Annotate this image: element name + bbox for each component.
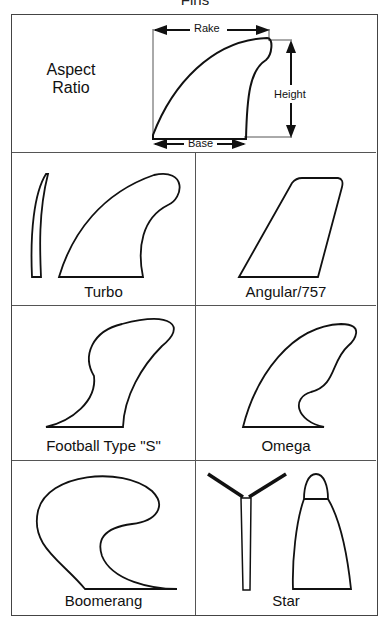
- fin-cell-star: Star: [196, 461, 376, 615]
- fin-cell-boomerang: Boomerang: [12, 461, 196, 615]
- fin-label-omega: Omega: [196, 437, 376, 454]
- base-label: Base: [188, 137, 213, 149]
- aspect-ratio-cell: Aspect Ratio Rake: [12, 15, 376, 153]
- fin-cell-football-s: Football Type "S": [12, 306, 196, 461]
- fin-label-football-s: Football Type "S": [12, 437, 195, 454]
- rake-label: Rake: [194, 22, 220, 34]
- fin-label-angular: Angular/757: [196, 283, 376, 300]
- height-label: Height: [274, 88, 306, 100]
- fin-cell-angular: Angular/757: [196, 153, 376, 306]
- fin-label-star: Star: [196, 592, 376, 609]
- fin-cell-turbo: Turbo: [12, 153, 196, 306]
- fin-cell-omega: Omega: [196, 306, 376, 461]
- fin-label-turbo: Turbo: [12, 283, 195, 300]
- diagram-title: Fins: [0, 0, 390, 8]
- fin-label-boomerang: Boomerang: [12, 592, 195, 609]
- fin-types-grid: Aspect Ratio Rake: [11, 14, 378, 616]
- aspect-ratio-fin-diagram: [12, 15, 376, 153]
